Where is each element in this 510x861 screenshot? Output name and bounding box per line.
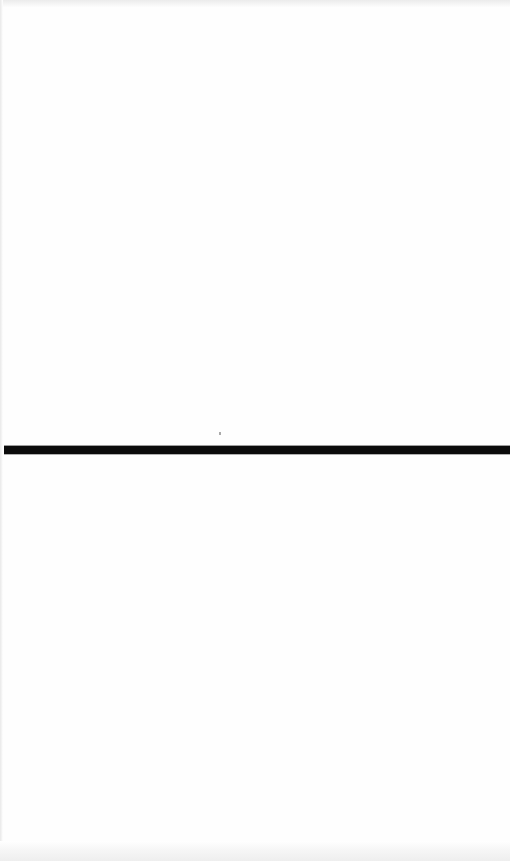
scanned-page: [0, 0, 510, 861]
lower-blank-region: [0, 454, 510, 841]
upper-blank-region: [0, 8, 510, 446]
scan-edge-bottom: [0, 841, 510, 861]
scan-edge-left: [0, 0, 3, 861]
paper-background: [0, 0, 510, 861]
scan-edge-top: [0, 0, 510, 8]
scan-speck: [219, 432, 221, 435]
horizontal-rule: [4, 446, 510, 454]
